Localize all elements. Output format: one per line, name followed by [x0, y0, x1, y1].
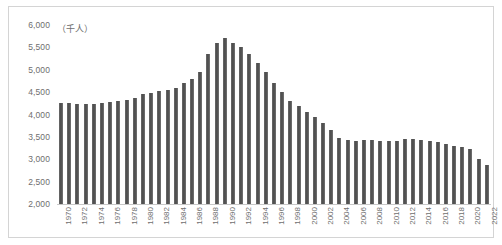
x-axis-slot: 2018	[450, 206, 458, 239]
bar[interactable]	[116, 101, 120, 204]
x-axis-slot	[344, 206, 352, 239]
bar[interactable]	[157, 91, 161, 204]
bar-slot	[204, 25, 212, 204]
bar[interactable]	[67, 103, 71, 204]
bar[interactable]	[337, 138, 341, 204]
bar-slot	[180, 25, 188, 204]
x-axis-slot: 1976	[106, 206, 114, 239]
bar-slot	[327, 25, 335, 204]
bar[interactable]	[305, 112, 309, 204]
bar[interactable]	[468, 149, 472, 204]
bar[interactable]	[477, 159, 481, 204]
bar[interactable]	[92, 104, 96, 204]
x-axis-slot: 1980	[139, 206, 147, 239]
bar[interactable]	[108, 102, 112, 204]
bar[interactable]	[313, 117, 317, 204]
x-axis-slot	[98, 206, 106, 239]
x-axis-slot	[425, 206, 433, 239]
x-axis-slot	[65, 206, 73, 239]
bar-slot	[466, 25, 474, 204]
x-axis: 1970197219741976197819801982198419861988…	[57, 206, 491, 239]
bar-slot	[303, 25, 311, 204]
x-axis-slot: 2004	[335, 206, 343, 239]
bar-slot	[90, 25, 98, 204]
y-axis-tick-label: 6,000	[28, 20, 50, 30]
bar[interactable]	[354, 141, 358, 204]
x-axis-slot	[114, 206, 122, 239]
bar[interactable]	[256, 63, 260, 204]
bar-slot	[262, 25, 270, 204]
bar-slot	[254, 25, 262, 204]
bar[interactable]	[231, 43, 235, 204]
y-axis-tick-label: 2,000	[28, 199, 50, 209]
bar[interactable]	[239, 47, 243, 204]
bar-slot	[229, 25, 237, 204]
bar-slot	[319, 25, 327, 204]
x-axis-slot	[196, 206, 204, 239]
bar[interactable]	[206, 54, 210, 204]
bar[interactable]	[436, 142, 440, 204]
bar[interactable]	[182, 83, 186, 204]
bar[interactable]	[387, 141, 391, 204]
bar-slot	[221, 25, 229, 204]
bar[interactable]	[264, 72, 268, 204]
bar[interactable]	[370, 140, 374, 204]
bar[interactable]	[411, 139, 415, 204]
bar-slot	[425, 25, 433, 204]
bar[interactable]	[321, 123, 325, 204]
x-axis-slot	[458, 206, 466, 239]
x-axis-baseline	[57, 204, 491, 205]
bar[interactable]	[174, 88, 178, 204]
bar[interactable]	[223, 38, 227, 204]
bar[interactable]	[141, 94, 145, 204]
bar[interactable]	[149, 93, 153, 204]
bar[interactable]	[272, 83, 276, 204]
bar-slot	[286, 25, 294, 204]
bar[interactable]	[125, 100, 129, 204]
bar[interactable]	[452, 146, 456, 204]
bar-series	[57, 25, 491, 204]
bar[interactable]	[378, 141, 382, 204]
bar-slot	[483, 25, 491, 204]
x-axis-slot	[360, 206, 368, 239]
x-axis-slot	[213, 206, 221, 239]
bar[interactable]	[428, 141, 432, 204]
bar-slot	[131, 25, 139, 204]
bar[interactable]	[133, 98, 137, 205]
bar[interactable]	[198, 72, 202, 204]
bar[interactable]	[444, 144, 448, 204]
bar[interactable]	[280, 92, 284, 204]
bar-slot	[311, 25, 319, 204]
chart-frame: 6,0005,5005,0004,5004,0003,5003,0002,500…	[8, 6, 494, 238]
bar[interactable]	[166, 90, 170, 204]
x-axis-slot	[147, 206, 155, 239]
bar-slot	[196, 25, 204, 204]
bar-slot	[270, 25, 278, 204]
x-axis-slot: 2014	[417, 206, 425, 239]
bar[interactable]	[485, 165, 489, 204]
bar[interactable]	[395, 141, 399, 204]
bar-slot	[147, 25, 155, 204]
x-axis-slot: 1982	[155, 206, 163, 239]
bar-slot	[294, 25, 302, 204]
bar-slot	[434, 25, 442, 204]
bar[interactable]	[190, 79, 194, 204]
bar-slot	[155, 25, 163, 204]
bar[interactable]	[215, 43, 219, 204]
bar[interactable]	[247, 54, 251, 204]
bar[interactable]	[84, 104, 88, 204]
y-axis-tick-label: 5,000	[28, 65, 50, 75]
bar[interactable]	[362, 140, 366, 204]
bar[interactable]	[460, 147, 464, 204]
bar[interactable]	[346, 140, 350, 204]
bar[interactable]	[59, 103, 63, 204]
bar[interactable]	[297, 106, 301, 204]
bar[interactable]	[288, 101, 292, 204]
bar[interactable]	[75, 104, 79, 204]
y-axis-tick-label: 3,000	[28, 154, 50, 164]
x-axis-slot	[311, 206, 319, 239]
bar[interactable]	[329, 130, 333, 204]
bar[interactable]	[403, 139, 407, 204]
bar[interactable]	[100, 103, 104, 204]
bar[interactable]	[419, 140, 423, 204]
